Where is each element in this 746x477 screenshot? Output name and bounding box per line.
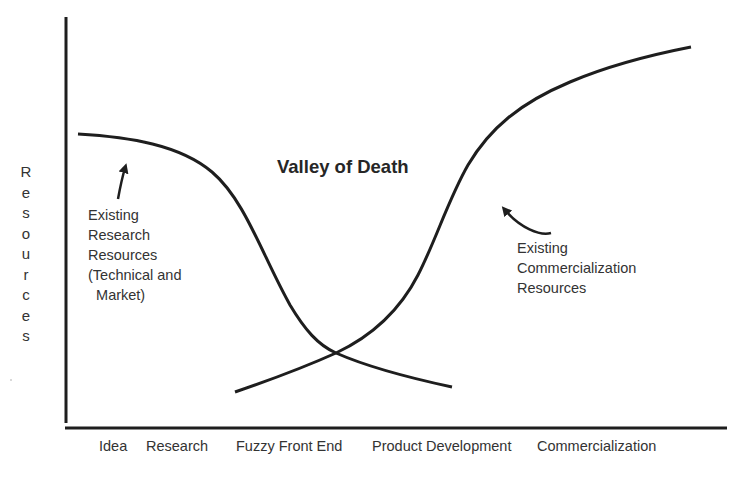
x-label-product-development: Product Development bbox=[372, 438, 511, 454]
y-axis-letter: R bbox=[14, 162, 38, 183]
commercialization-resources-curve bbox=[235, 47, 691, 392]
x-label-idea: Idea bbox=[99, 438, 127, 454]
y-axis-letter: s bbox=[14, 326, 38, 347]
research-resources-note: Existing Research Resources (Technical a… bbox=[88, 205, 182, 305]
research-arrow-icon bbox=[118, 168, 125, 199]
x-label-research: Research bbox=[146, 438, 208, 454]
y-axis-letter: s bbox=[14, 203, 38, 224]
x-label-fuzzy-front-end: Fuzzy Front End bbox=[236, 438, 342, 454]
commercialization-resources-note: Existing Commercialization Resources bbox=[517, 238, 636, 298]
y-axis-label: R e s o u r c e s bbox=[14, 162, 38, 347]
y-axis-letter: r bbox=[14, 265, 38, 286]
y-axis-letter: o bbox=[14, 224, 38, 245]
commercialization-arrow-icon bbox=[505, 210, 551, 234]
diagram-title: Valley of Death bbox=[277, 156, 409, 178]
y-axis-letter: c bbox=[14, 285, 38, 306]
y-axis-letter: e bbox=[14, 306, 38, 327]
y-axis-letter: e bbox=[14, 183, 38, 204]
y-axis-letter: u bbox=[14, 244, 38, 265]
x-label-commercialization: Commercialization bbox=[537, 438, 656, 454]
scan-speck bbox=[10, 379, 12, 381]
